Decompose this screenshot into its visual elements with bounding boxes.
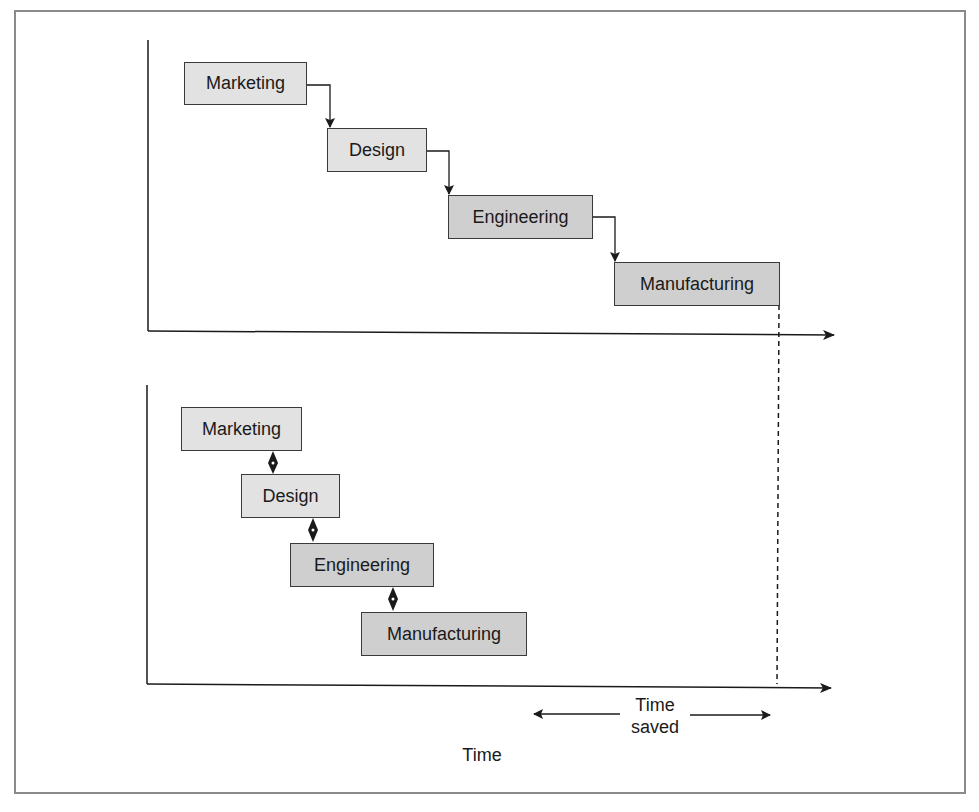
stage-label: Marketing	[202, 419, 281, 440]
sequential-engineering-box: Engineering	[448, 195, 593, 239]
stage-label: Marketing	[206, 73, 285, 94]
stage-label: Design	[349, 140, 405, 161]
x-axis-label: Time	[452, 744, 512, 766]
stage-label: Manufacturing	[387, 624, 501, 645]
time-saved-label: Time saved	[622, 694, 688, 738]
concurrent-engineering-box: Engineering	[290, 543, 434, 587]
concurrent-manufacturing-box: Manufacturing	[361, 612, 527, 656]
stage-label: Design	[262, 486, 318, 507]
sequential-design-box: Design	[327, 128, 427, 172]
time-saved-line1: Time	[622, 694, 688, 716]
sequential-marketing-box: Marketing	[184, 62, 307, 105]
concurrent-marketing-box: Marketing	[181, 407, 302, 451]
diagram-lines	[0, 0, 979, 812]
stage-label: Engineering	[314, 555, 410, 576]
concurrent-design-box: Design	[241, 474, 340, 518]
stage-label: Engineering	[472, 207, 568, 228]
sequential-manufacturing-box: Manufacturing	[614, 262, 780, 306]
completion-dashed-line	[777, 305, 779, 684]
time-saved-line2: saved	[622, 716, 688, 738]
stage-label: Manufacturing	[640, 274, 754, 295]
